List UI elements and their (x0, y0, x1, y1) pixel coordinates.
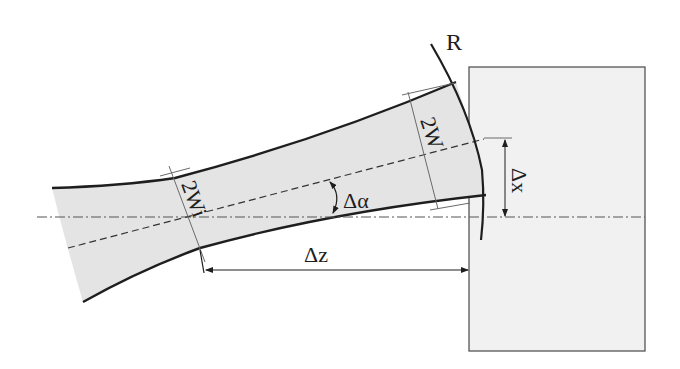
target-block (469, 67, 645, 351)
label-delta-x: Δx (507, 168, 532, 193)
label-r: R (446, 29, 462, 55)
label-delta-z: Δz (304, 242, 328, 267)
beam-width-tick-bottom (430, 203, 470, 210)
label-delta-alpha: Δα (343, 188, 369, 213)
diagram-canvas: R 2Wi 2W Δα Δx Δz (0, 0, 680, 369)
beam-envelope-fill (52, 82, 486, 302)
